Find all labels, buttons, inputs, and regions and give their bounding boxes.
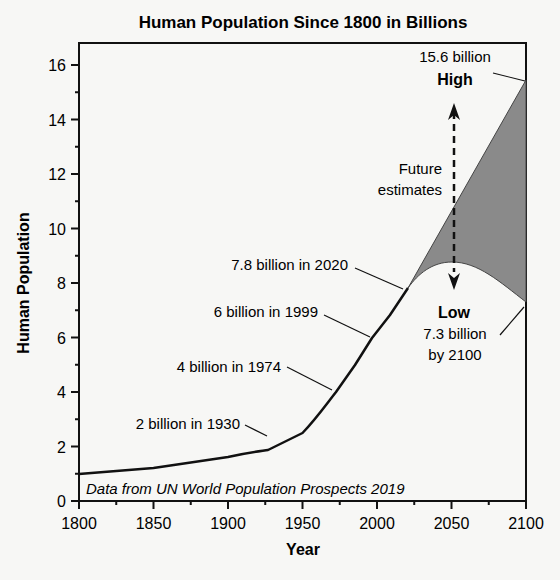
population-chart: Human Population Since 1800 in Billions … [0,0,560,580]
x-tick-label: 1850 [136,515,172,532]
annotation-low-value-line2: by 2100 [428,346,481,363]
y-axis-label: Human Population [15,212,32,353]
y-tick-label: 6 [57,330,66,347]
x-tick-label: 1800 [61,515,97,532]
x-tick-labels: 1800 1850 1900 1950 2000 2050 2100 [61,515,544,532]
x-axis-label: Year [286,541,320,558]
x-tick-label: 1900 [210,515,246,532]
annotation-low: Low [438,304,471,321]
annotation-future-line2: estimates [378,181,442,198]
y-tick-label: 8 [57,275,66,292]
annotation-high: High [437,71,473,88]
annotation-2020: 7.8 billion in 2020 [231,256,348,273]
x-tick-label: 2000 [359,515,395,532]
y-axis [71,65,79,501]
x-tick-label: 1950 [285,515,321,532]
annotation-1930: 2 billion in 1930 [136,415,240,432]
annotation-low-value-line1: 7.3 billion [423,325,486,342]
y-tick-label: 0 [57,493,66,510]
y-tick-label: 10 [48,221,66,238]
x-tick-label: 2050 [434,515,470,532]
chart-title: Human Population Since 1800 in Billions [139,13,468,32]
arrow-down-icon [448,273,460,290]
y-tick-label: 2 [57,439,66,456]
x-axis [79,501,526,509]
source-note: Data from UN World Population Prospects … [86,480,405,497]
y-tick-label: 14 [48,112,66,129]
x-tick-label: 2100 [508,515,544,532]
y-tick-labels: 0 2 4 6 8 10 12 14 16 [48,57,66,510]
y-tick-label: 16 [48,57,66,74]
annotation-future-line1: Future [399,160,442,177]
y-tick-label: 4 [57,384,66,401]
annotation-1974: 4 billion in 1974 [177,358,281,375]
y-tick-label: 12 [48,166,66,183]
annotation-1999: 6 billion in 1999 [214,303,318,320]
annotation-high-value: 15.6 billion [419,48,491,65]
